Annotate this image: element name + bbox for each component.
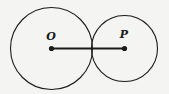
label-p: P xyxy=(119,28,129,41)
label-o: O xyxy=(46,30,56,43)
point-o-dot xyxy=(49,46,54,51)
tangent-circles-diagram: O P xyxy=(0,0,169,94)
point-p-dot xyxy=(122,46,127,51)
